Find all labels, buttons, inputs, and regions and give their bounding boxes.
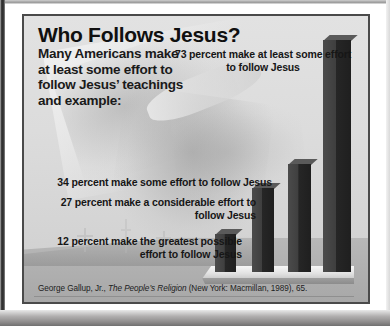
source-publication: (New York: Macmillan, 1989), 65. — [186, 284, 307, 293]
bar-label-12: 12 percent make the greatest possible ef… — [34, 235, 242, 260]
scan-edge-left — [0, 0, 5, 326]
praying-figure-body — [107, 84, 276, 248]
figure-panel: Who Follows Jesus? Many Americans make a… — [24, 16, 368, 302]
bar-label-27: 27 percent make a considerable effort to… — [42, 196, 256, 221]
scan-edge-right — [386, 0, 390, 326]
bar-73-percent — [323, 40, 351, 272]
scanned-page: Who Follows Jesus? Many Americans make a… — [0, 0, 390, 326]
intro-text: Many Americans make at least some effort… — [38, 46, 188, 108]
scan-edge-top — [0, 0, 390, 4]
source-title: The People’s Religion — [108, 284, 186, 293]
source-author: George Gallup, Jr., — [38, 284, 108, 293]
scan-edge-bottom — [0, 310, 390, 326]
page-title: Who Follows Jesus? — [38, 24, 240, 45]
bar-label-34: 34 percent make some effort to follow Je… — [42, 176, 272, 189]
source-citation: George Gallup, Jr., The People’s Religio… — [38, 284, 348, 294]
figure-frame: Who Follows Jesus? Many Americans make a… — [22, 14, 370, 304]
bar-label-73: 73 percent make at least some effort to … — [174, 48, 352, 73]
source-divider — [34, 296, 354, 297]
